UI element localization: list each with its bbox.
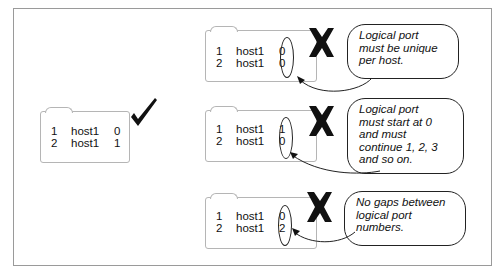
x-mark-icon <box>307 28 334 222</box>
arrowhead-icon <box>290 76 305 236</box>
x-mark-icons-and-arrows <box>0 0 504 277</box>
